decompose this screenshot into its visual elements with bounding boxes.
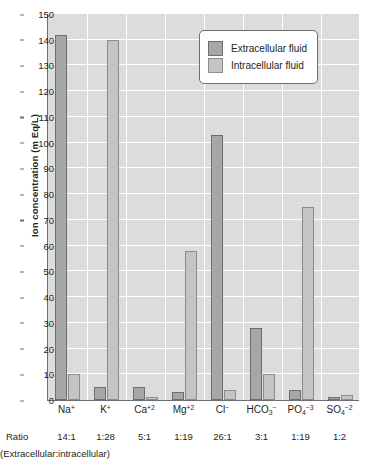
ratio-value: 3:1 — [255, 431, 268, 442]
y-axis-tick-label: 60 — [24, 240, 54, 251]
y-axis-tick-label: 120 — [24, 86, 54, 97]
y-axis-tick-label: 30 — [24, 317, 54, 328]
x-axis-line — [47, 400, 359, 401]
ratio-value: 1:19 — [291, 431, 310, 442]
legend-item-extracellular: Extracellular fluid — [208, 41, 307, 56]
y-axis-tick-mark — [20, 14, 24, 15]
bar-mg2-intracellular — [185, 251, 197, 400]
legend-label-intracellular: Intracellular fluid — [231, 60, 304, 71]
ratio-caption: (Extracellular:intracellular) — [0, 448, 110, 459]
y-axis-tick-mark — [20, 91, 24, 92]
y-axis-tick-label: 0 — [24, 395, 54, 406]
y-axis-tick-label: 10 — [24, 369, 54, 380]
ratio-value: 26:1 — [213, 431, 232, 442]
y-axis-tick-label: 150 — [24, 9, 54, 20]
bar-chart-figure: Ion concentration (m Eq/L) 0102030405060… — [0, 0, 365, 468]
y-axis-tick-label: 80 — [24, 189, 54, 200]
legend-label-extracellular: Extracellular fluid — [231, 43, 307, 54]
ratio-value: 1:2 — [333, 431, 346, 442]
ratio-value: 14:1 — [57, 431, 76, 442]
x-axis-label: Na+ — [58, 404, 75, 415]
y-axis-tick-label: 90 — [24, 163, 54, 174]
y-axis-tick-mark — [20, 194, 24, 195]
x-axis-label: SO4−2 — [327, 404, 353, 416]
x-axis-label: Mg+2 — [173, 404, 195, 415]
x-axis-label: Ca+2 — [134, 404, 155, 415]
y-axis-tick-label: 40 — [24, 292, 54, 303]
y-axis-tick-label: 20 — [24, 343, 54, 354]
ratio-value: 1:19 — [174, 431, 193, 442]
y-axis-tick-label: 130 — [24, 60, 54, 71]
y-axis-tick-mark — [20, 220, 24, 221]
y-axis-tick-mark — [20, 323, 24, 324]
y-axis-title: Ion concentration (m Eq/L) — [29, 66, 40, 286]
bar-k-extracellular — [94, 387, 106, 400]
legend-item-intracellular: Intracellular fluid — [208, 58, 307, 73]
ratio-row-label: Ratio — [6, 431, 28, 442]
bar-po43-extracellular — [289, 390, 301, 400]
y-axis-tick-mark — [20, 349, 24, 350]
legend-swatch-intracellular — [208, 58, 223, 73]
y-axis-tick-label: 100 — [24, 137, 54, 148]
bar-cl-extracellular — [211, 135, 223, 400]
y-axis-tick-mark — [20, 40, 24, 41]
bar-hco3-extracellular — [250, 328, 262, 400]
ratio-value: 5:1 — [138, 431, 151, 442]
y-axis-tick-mark — [20, 117, 24, 118]
x-axis-label: Cl− — [216, 404, 229, 415]
bar-hco3-intracellular — [263, 374, 275, 400]
bar-group — [321, 14, 360, 400]
chart-legend: Extracellular fluid Intracellular fluid — [199, 30, 318, 84]
ratio-value: 1:28 — [96, 431, 115, 442]
bar-na-intracellular — [68, 374, 80, 400]
y-axis-tick-mark — [20, 65, 24, 66]
x-axis-label: PO4−3 — [288, 404, 314, 416]
y-axis-tick-label: 70 — [24, 214, 54, 225]
y-axis-tick-label: 110 — [24, 111, 54, 122]
bar-na-extracellular — [55, 35, 67, 400]
y-axis-tick-mark — [20, 246, 24, 247]
bar-ca2-extracellular — [133, 387, 145, 400]
legend-swatch-extracellular — [208, 41, 223, 56]
y-axis-tick-mark — [20, 168, 24, 169]
bar-po43-intracellular — [302, 207, 314, 400]
y-axis-tick-mark — [20, 271, 24, 272]
bar-k-intracellular — [107, 40, 119, 400]
y-axis-tick-mark — [20, 143, 24, 144]
y-axis-tick-mark — [20, 297, 24, 298]
y-axis-tick-label: 50 — [24, 266, 54, 277]
y-axis-tick-label: 140 — [24, 34, 54, 45]
bar-group — [126, 14, 165, 400]
x-axis-label: HCO3− — [247, 404, 277, 416]
bar-cl-intracellular — [224, 390, 236, 400]
bar-mg2-extracellular — [172, 392, 184, 400]
y-axis-tick-mark — [20, 400, 24, 401]
x-axis-label: K+ — [100, 404, 111, 415]
bar-group — [87, 14, 126, 400]
y-axis-tick-mark — [20, 374, 24, 375]
